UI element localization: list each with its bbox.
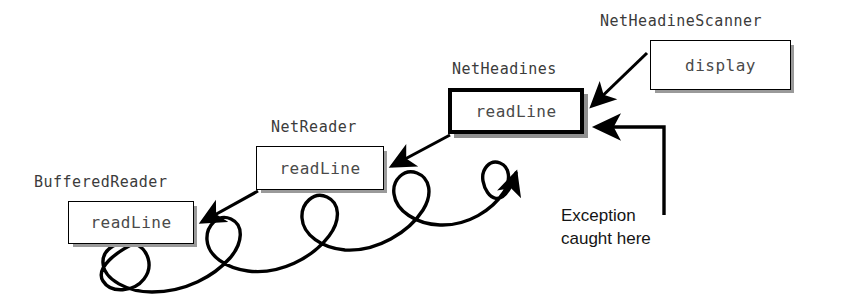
- method-label-readline: readLine: [90, 213, 171, 232]
- exception-annotation: Exception caught here: [561, 205, 651, 251]
- class-caption-buffered-reader: BufferedReader: [34, 175, 167, 190]
- arrow-scanner-to-netheadines: [592, 53, 647, 106]
- method-label-readline: readLine: [279, 159, 360, 178]
- class-caption-net-reader: NetReader: [271, 120, 357, 135]
- method-box-buffered-reader-readline[interactable]: readLine: [68, 201, 194, 244]
- arrow-netheadines-to-netreader: [392, 135, 450, 166]
- diagram-canvas: NetHeadineScanner display NetHeadines re…: [0, 0, 848, 305]
- method-box-net-headines-readline[interactable]: readLine: [448, 88, 584, 134]
- method-box-net-reader-readline[interactable]: readLine: [256, 146, 384, 190]
- method-box-net-headine-scanner-display[interactable]: display: [650, 40, 791, 90]
- method-label-display: display: [685, 56, 756, 75]
- exception-callout-leader: [596, 127, 664, 215]
- class-caption-net-headine-scanner: NetHeadineScanner: [600, 14, 762, 29]
- exception-annotation-line2: caught here: [561, 228, 651, 251]
- method-label-readline: readLine: [475, 102, 556, 121]
- exception-annotation-line1: Exception: [561, 205, 651, 228]
- class-caption-net-headines: NetHeadines: [452, 62, 557, 77]
- arrow-netreader-to-bufferedreader: [202, 191, 258, 222]
